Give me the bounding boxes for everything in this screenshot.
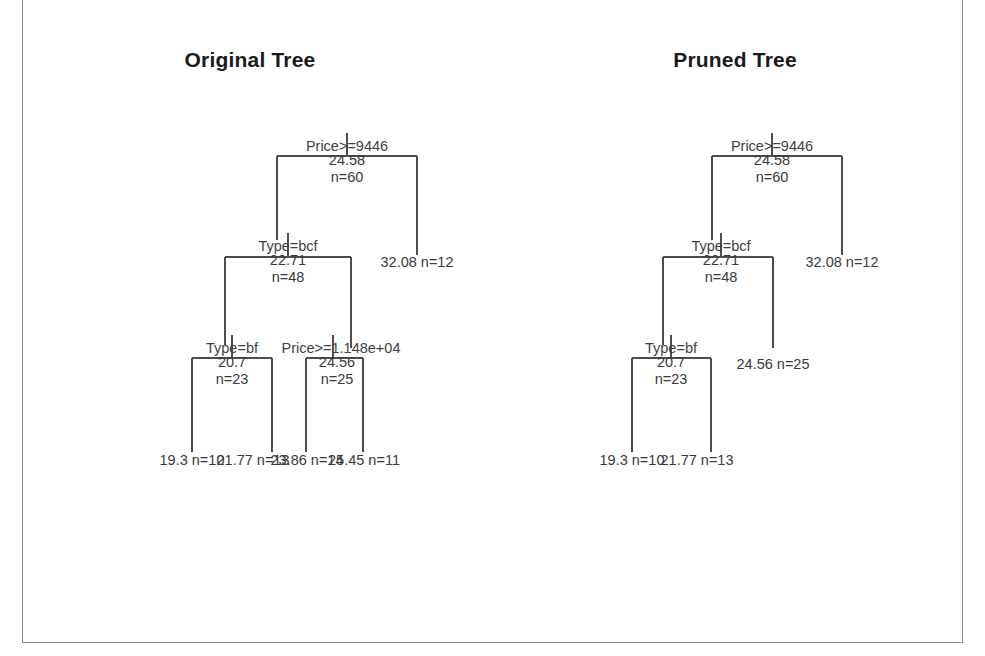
node-pruned-root: Price>=9446 24.58 n=60 — [731, 138, 813, 186]
leaf-n-label: n=11 — [368, 452, 400, 468]
node-original-ll: Type=bf 20.7 n=23 — [206, 340, 258, 388]
leaf-original-right: 32.08 n=12 — [381, 254, 454, 271]
leaf-n-label: n=12 — [846, 254, 879, 270]
leaf-original-lll: 19.3 n=10 — [160, 452, 225, 469]
leaf-pruned-lr: 24.56 n=25 — [737, 356, 810, 373]
node-pruned-left: Type=bcf 22.71 n=48 — [691, 238, 750, 286]
leaf-value-label: 19.3 — [160, 452, 188, 468]
node-n-label: n=23 — [645, 371, 697, 388]
leaf-value-label: 32.08 — [381, 254, 417, 270]
pruned-tree-connectors — [485, 0, 985, 656]
node-original-left: Type=bcf 22.71 n=48 — [258, 238, 317, 286]
leaf-value-label: 21.77 — [217, 452, 253, 468]
node-n-label: n=60 — [731, 169, 813, 186]
leaf-n-label: n=12 — [421, 254, 454, 270]
node-n-label: n=25 — [274, 371, 401, 388]
leaf-value-label: 24.56 — [737, 356, 773, 372]
leaf-pruned-lll: 19.3 n=10 — [600, 452, 665, 469]
leaf-value-label: 19.3 — [600, 452, 628, 468]
leaf-value-label: 32.08 — [806, 254, 842, 270]
original-tree-connectors — [0, 0, 500, 656]
leaf-n-label: n=13 — [701, 452, 734, 468]
panel-original-tree: Original Tree — [0, 0, 500, 656]
node-pruned-ll: Type=bf 20.7 n=23 — [645, 340, 697, 388]
panel-pruned-tree: Pruned Tree Pric — [485, 0, 985, 656]
figure-canvas: Original Tree — [0, 0, 985, 656]
leaf-value-label: 23.86 — [271, 452, 307, 468]
node-n-label: n=48 — [691, 269, 750, 286]
leaf-value-label: 21.77 — [661, 452, 697, 468]
node-original-root: Price>=9446 24.58 n=60 — [306, 138, 388, 186]
leaf-pruned-right: 32.08 n=12 — [806, 254, 879, 271]
node-n-label: n=23 — [206, 371, 258, 388]
node-n-label: n=48 — [258, 269, 317, 286]
leaf-value-label: 25.45 — [328, 452, 364, 468]
node-original-lr: Price>=1.148e+04 24.56 n=25 — [282, 340, 401, 388]
leaf-pruned-llr: 21.77 n=13 — [661, 452, 734, 469]
leaf-original-lrr: 25.45 n=11 — [328, 452, 400, 469]
node-n-label: n=60 — [306, 169, 388, 186]
leaf-n-label: n=25 — [777, 356, 810, 372]
